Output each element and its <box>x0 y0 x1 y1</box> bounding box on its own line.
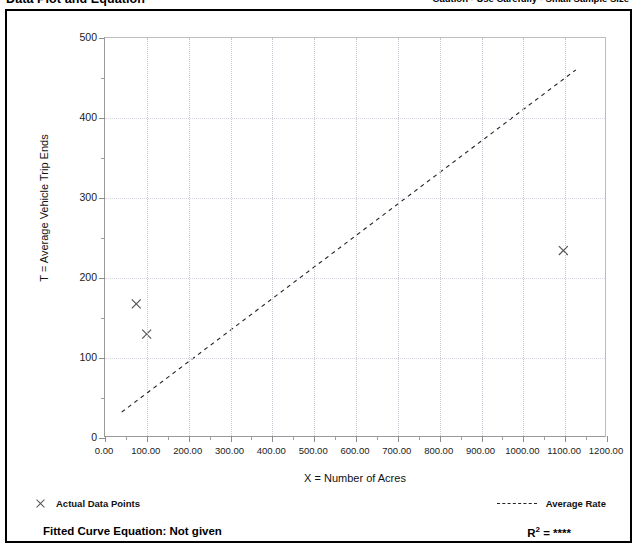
plot-inner <box>105 38 605 436</box>
x-axis-tick-label: 1200.00 <box>589 445 623 456</box>
average-rate-line <box>122 70 576 412</box>
fitted-curve-equation: Fitted Curve Equation: Not given <box>43 525 222 537</box>
x-axis-tick <box>565 436 566 442</box>
x-axis-tick <box>105 436 106 442</box>
y-axis-tick-label: 0 <box>91 431 97 443</box>
x-axis-minor-tick <box>544 436 545 440</box>
x-axis-tick <box>231 436 232 442</box>
chart-figure: 0100200300400500 0.00100.00200.00300.004… <box>7 11 630 541</box>
x-axis-tick <box>440 436 441 442</box>
y-axis-tick <box>99 38 105 39</box>
x-axis-title: X = Number of Acres <box>104 472 606 484</box>
chart-footer: Fitted Curve Equation: Not given R2 = **… <box>7 525 630 545</box>
x-axis-tick <box>607 436 608 442</box>
x-axis-minor-tick <box>461 436 462 440</box>
r2-prefix: R <box>527 527 535 539</box>
r2-number: = **** <box>540 527 571 539</box>
gridline-horizontal <box>105 358 605 359</box>
x-axis-tick-label: 500.00 <box>299 445 328 456</box>
y-axis-title: T = Average Vehicle Trip Ends <box>38 98 50 318</box>
gridline-vertical <box>482 38 483 436</box>
x-axis-minor-tick <box>419 436 420 440</box>
x-axis-tick-label: 800.00 <box>424 445 453 456</box>
caution-note: Caution - Use Carefully - Small Sample S… <box>433 0 629 4</box>
gridline-vertical <box>189 38 190 436</box>
y-axis-minor-tick <box>101 398 105 399</box>
clipped-header-strip: Data Plot and Equation Caution - Use Car… <box>0 0 637 9</box>
legend-item-average-rate: Average Rate <box>497 498 606 509</box>
dashed-line-icon <box>497 503 537 504</box>
x-axis-minor-tick <box>168 436 169 440</box>
x-axis-minor-tick <box>586 436 587 440</box>
figure-panel: 0100200300400500 0.00100.00200.00300.004… <box>5 9 632 543</box>
data-point-marker <box>559 246 568 255</box>
x-axis-minor-tick <box>293 436 294 440</box>
gridline-vertical <box>398 38 399 436</box>
y-axis-tick-label: 400 <box>79 111 97 123</box>
gridline-vertical <box>314 38 315 436</box>
page-title: Data Plot and Equation <box>6 0 145 6</box>
gridline-horizontal <box>105 198 605 199</box>
x-axis-tick-label: 1000.00 <box>505 445 539 456</box>
gridline-vertical <box>565 38 566 436</box>
x-axis-minor-tick <box>251 436 252 440</box>
y-axis-tick-label: 500 <box>79 31 97 43</box>
gridline-horizontal <box>105 278 605 279</box>
x-axis-minor-tick <box>126 436 127 440</box>
y-axis-tick <box>99 118 105 119</box>
r-squared-value: R2 = **** <box>527 525 571 539</box>
legend-points-label: Actual Data Points <box>56 498 140 509</box>
gridline-vertical <box>147 38 148 436</box>
data-layer <box>105 38 605 436</box>
legend-item-points: Actual Data Points <box>35 498 140 509</box>
y-axis-tick <box>99 278 105 279</box>
plot-area <box>104 37 606 437</box>
x-axis-minor-tick <box>335 436 336 440</box>
chart-legend: Actual Data Points Average Rate <box>7 498 630 518</box>
y-axis-minor-tick <box>101 158 105 159</box>
x-axis-tick-label: 600.00 <box>340 445 369 456</box>
gridline-vertical <box>356 38 357 436</box>
x-axis-tick <box>398 436 399 442</box>
y-axis-minor-tick <box>101 78 105 79</box>
y-axis-tick <box>99 358 105 359</box>
gridline-horizontal <box>105 118 605 119</box>
x-axis-tick-label: 300.00 <box>215 445 244 456</box>
y-axis-tick-labels: 0100200300400500 <box>59 37 97 437</box>
x-axis-minor-tick <box>210 436 211 440</box>
x-axis-tick <box>314 436 315 442</box>
x-axis-tick-label: 0.00 <box>95 445 114 456</box>
x-axis-tick-label: 900.00 <box>466 445 495 456</box>
y-axis-tick <box>99 198 105 199</box>
data-point-marker <box>132 299 141 308</box>
x-axis-tick-label: 400.00 <box>257 445 286 456</box>
gridline-vertical <box>440 38 441 436</box>
gridline-vertical <box>272 38 273 436</box>
x-axis-tick-label: 700.00 <box>382 445 411 456</box>
x-axis-tick <box>482 436 483 442</box>
gridline-vertical <box>523 38 524 436</box>
x-axis-minor-tick <box>502 436 503 440</box>
x-axis-tick <box>523 436 524 442</box>
gridline-vertical <box>231 38 232 436</box>
legend-line-label: Average Rate <box>546 498 606 509</box>
y-axis-minor-tick <box>101 318 105 319</box>
x-axis-tick <box>272 436 273 442</box>
y-axis-tick-label: 300 <box>79 191 97 203</box>
x-axis-tick <box>147 436 148 442</box>
x-axis-tick-labels: 0.00100.00200.00300.00400.00500.00600.00… <box>104 445 606 461</box>
y-axis-tick-label: 100 <box>79 351 97 363</box>
x-axis-tick-label: 100.00 <box>131 445 160 456</box>
y-axis-tick-label: 200 <box>79 271 97 283</box>
x-axis-tick <box>189 436 190 442</box>
x-marker-icon <box>35 498 46 509</box>
x-axis-tick <box>356 436 357 442</box>
x-axis-tick-label: 1100.00 <box>547 445 581 456</box>
x-axis-tick-label: 200.00 <box>173 445 202 456</box>
x-axis-minor-tick <box>377 436 378 440</box>
y-axis-minor-tick <box>101 238 105 239</box>
